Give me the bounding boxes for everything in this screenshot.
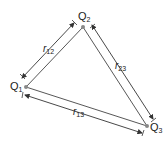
triangle-diagram: Q1 Q2 Q3 r12 r23 r13 (0, 0, 167, 144)
side-q2-q3 (83, 27, 147, 126)
label-q3: Q3 (150, 121, 163, 134)
charge-point-q3 (145, 124, 149, 128)
label-r13: r13 (73, 106, 84, 118)
side-q1-q2 (26, 27, 83, 87)
side-q1-q3 (26, 87, 147, 126)
tick (142, 130, 144, 136)
label-r12: r12 (43, 43, 54, 55)
charge-point-q2 (81, 25, 85, 29)
label-r23: r23 (115, 60, 126, 72)
charge-point-q1 (24, 85, 28, 89)
tick (20, 74, 25, 79)
label-q1: Q1 (10, 80, 23, 93)
label-q2: Q2 (78, 10, 91, 23)
tick (90, 24, 95, 28)
dimension-arrow-r23 (92, 25, 153, 119)
